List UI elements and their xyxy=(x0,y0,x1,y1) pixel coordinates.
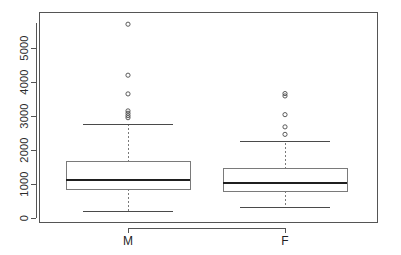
x-tick-label: F xyxy=(281,234,288,248)
x-tick-label: M xyxy=(123,234,133,248)
y-tick-label: 3000 xyxy=(18,103,30,128)
boxplot-canvas: 010002000300040005000 MF xyxy=(0,0,401,255)
boxplot-figure: 010002000300040005000 MF xyxy=(0,0,401,255)
y-tick-label: 5000 xyxy=(18,35,30,60)
y-tick-label: 2000 xyxy=(18,137,30,162)
y-tick-label: 0 xyxy=(18,215,30,221)
y-tick-label: 1000 xyxy=(18,171,30,196)
y-tick-label: 4000 xyxy=(18,69,30,94)
figure-background xyxy=(0,0,401,255)
